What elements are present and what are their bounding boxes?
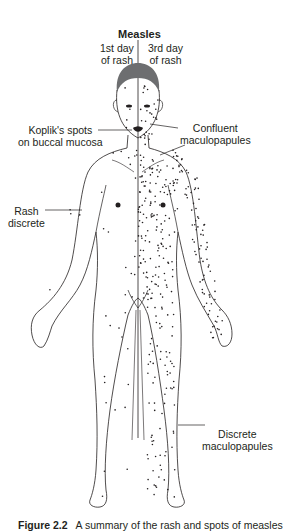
rash-dot	[160, 359, 162, 361]
rash-dot	[145, 235, 147, 237]
rash-dot	[217, 328, 219, 330]
rash-dot	[153, 103, 155, 105]
rash-dot	[130, 164, 132, 166]
rash-dot	[162, 186, 164, 188]
rash-dot	[173, 156, 175, 158]
rash-dot	[145, 181, 147, 183]
rash-dot	[161, 469, 163, 471]
rash-dot	[152, 444, 154, 446]
rash-dot	[212, 326, 214, 328]
rash-dot	[218, 329, 220, 331]
rash-dot	[198, 188, 200, 190]
rash-dot	[152, 172, 154, 174]
rash-dot	[147, 89, 149, 91]
rash-dot	[171, 291, 173, 293]
rash-dot	[140, 160, 142, 162]
rash-dot	[202, 292, 204, 294]
rash-dot	[144, 200, 146, 202]
rash-dot	[160, 169, 162, 171]
rash-dot	[205, 249, 207, 251]
rash-dot	[155, 274, 157, 276]
rash-dot	[49, 289, 51, 291]
rash-dot	[169, 352, 171, 354]
left-eye	[126, 105, 132, 108]
rash-dot	[126, 469, 128, 471]
rash-dot	[104, 470, 106, 472]
rash-dot	[151, 281, 153, 283]
rash-dot	[202, 261, 204, 263]
rash-dot	[155, 315, 157, 317]
rash-dot	[143, 166, 145, 168]
rash-dot	[150, 343, 152, 345]
rash-dot	[153, 494, 155, 496]
column-right-line1: 3rd day	[148, 42, 183, 54]
rash-dot	[164, 479, 166, 481]
rash-dot	[141, 205, 143, 207]
rash-dot	[164, 192, 166, 194]
rash-dot	[162, 246, 164, 248]
rash-dot	[137, 127, 139, 129]
rash-dot	[141, 238, 143, 240]
rash-dot	[173, 431, 175, 433]
rash-dot	[148, 363, 150, 365]
rash-dot	[102, 496, 104, 498]
rash-dot	[125, 294, 127, 296]
rash-dot	[112, 152, 114, 154]
rash-dot	[151, 441, 153, 443]
label-rash-line2: discrete	[8, 217, 45, 229]
rash-dot	[154, 410, 156, 412]
rash-dot	[152, 168, 154, 170]
rash-dot	[175, 152, 177, 154]
rash-dot	[148, 133, 150, 135]
rash-dot	[155, 485, 157, 487]
rash-dot	[156, 226, 158, 228]
rash-dot	[156, 214, 158, 216]
rash-dot	[153, 484, 155, 486]
rash-dot	[213, 326, 215, 328]
rash-dot	[157, 285, 159, 287]
rash-dot	[114, 409, 116, 411]
rash-dot	[149, 190, 151, 192]
rash-dot	[173, 314, 175, 316]
rash-dot	[179, 171, 181, 173]
rash-dot	[146, 286, 148, 288]
rash-dot	[136, 150, 138, 152]
rash-dot	[175, 179, 177, 181]
rash-dot	[154, 307, 156, 309]
rash-dot	[155, 456, 157, 458]
column-left-label: 1st day of rash	[100, 42, 134, 66]
rash-dot	[173, 366, 175, 368]
rash-dot	[185, 188, 187, 190]
rash-dot	[140, 211, 142, 213]
rash-dot	[161, 413, 163, 415]
rash-dot	[172, 276, 174, 278]
rash-dot	[178, 164, 180, 166]
rash-dot	[138, 207, 140, 209]
rash-dot	[129, 109, 131, 111]
rash-dot	[144, 185, 146, 187]
rash-dot	[165, 179, 167, 181]
rash-dot	[151, 133, 153, 135]
rash-dot	[178, 166, 180, 168]
figure-caption: Figure 2.2A summary of the rash and spot…	[18, 519, 283, 531]
rash-dot	[204, 306, 206, 308]
figure-title: Measles	[118, 28, 161, 40]
left-nipple	[116, 203, 121, 208]
rash-dot	[217, 316, 219, 318]
leader-confluent-1	[150, 124, 178, 128]
rash-dot	[158, 276, 160, 278]
rash-dot	[173, 387, 175, 389]
rash-dot	[169, 190, 171, 192]
rash-dot	[141, 120, 143, 122]
rash-dot	[192, 224, 194, 226]
rash-dot	[186, 169, 188, 171]
rash-dot	[169, 218, 171, 220]
rash-dot	[200, 258, 202, 260]
rash-dot	[172, 180, 174, 182]
rash-dot	[149, 112, 151, 114]
rash-dot	[157, 245, 159, 247]
rash-dot	[144, 171, 146, 173]
rash-dot	[153, 116, 155, 118]
rash-dot	[202, 234, 204, 236]
rash-dot	[143, 156, 145, 158]
